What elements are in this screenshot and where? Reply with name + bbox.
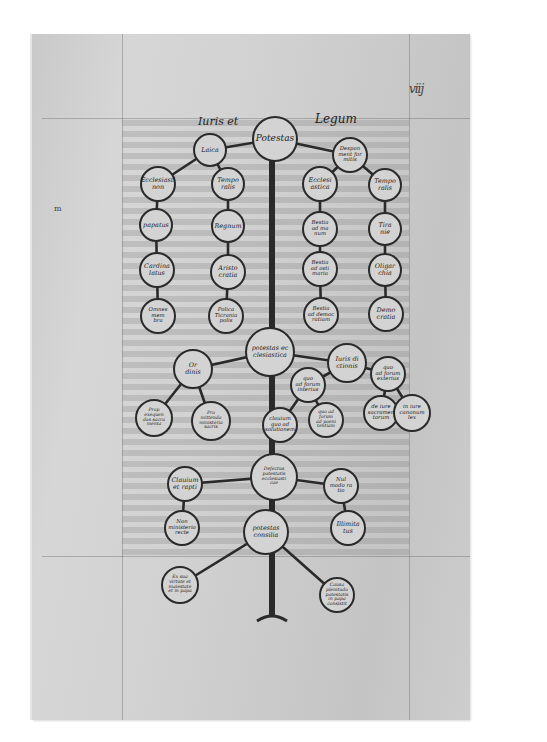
trunk-base xyxy=(257,616,287,621)
node-label-policraticia: Polica Ticrania polis xyxy=(215,307,238,324)
node-label-illimitatus: Illimita tus xyxy=(336,521,359,534)
node-label-laica: Laica xyxy=(201,147,219,154)
node-label-non-ministerio: Non ministerio recte xyxy=(168,519,196,536)
node-label-tiranie: Tira nie xyxy=(378,222,391,235)
node-label-regnum: Regnum xyxy=(215,223,242,230)
node-label-interius-right-sub: quo ad forum ad poeni tentiam xyxy=(316,410,336,429)
node-label-ecclesiastica-left: Ecclesiasti non xyxy=(141,177,176,190)
node-label-causa-right: Causa plenitudo potestatis in papa consi… xyxy=(326,583,349,607)
node-label-nullo-modo: Nul modo ra tio xyxy=(330,477,353,494)
node-label-exterius-sub2: in iure canonum lex xyxy=(399,404,424,421)
node-label-ordinis-left-sub: Prop exequen dos sacra menta xyxy=(143,408,165,427)
node-label-temporalis-right: Tempo ralis xyxy=(374,178,396,191)
node-label-causa-left: Ex sua virtute et maiestate et in papa xyxy=(168,575,191,594)
node-label-bestialiter: Bestia ad ma num xyxy=(311,220,328,237)
node-label-plenitudo-text: potestas consilia xyxy=(252,525,279,538)
node-label-quo-ad-forum-interius: quo ad forum interius xyxy=(296,376,321,393)
node-label-aristocratia: Aristo cratia xyxy=(218,265,237,278)
node-label-exterius-sub1: de iure sacramen torum xyxy=(368,404,395,421)
node-label-clauium-et-rapti: Clauium et rapti xyxy=(171,477,198,490)
node-label-papatus: papatus xyxy=(143,222,169,229)
node-label-iurisdictionis: Iuris di ctionis xyxy=(335,356,358,369)
node-label-temporalis-left: Tempo ralis xyxy=(217,177,239,190)
node-label-bestia-mariana: Bestia ad osti maria xyxy=(311,260,329,277)
node-label-bestia-democratia: Bestia ad democ ratiam xyxy=(308,306,334,323)
node-label-ordinis-right-sub: Pro mittenda ministeria sacris xyxy=(199,411,223,430)
node-label-potestas: Potestas xyxy=(256,134,294,143)
tree-diagram xyxy=(0,0,547,742)
node-label-omnes-ecclesie: Omnes mem bra xyxy=(149,307,168,324)
node-label-potestas-ecclesiastica: potestas ec clesiastica xyxy=(252,345,289,358)
node-label-defectus-potestatis: Defectus potestatis ecclesiasti cae xyxy=(262,467,286,486)
node-label-interius-sub: clauium quo ad solutionem xyxy=(265,416,295,433)
node-label-quo-ad-forum-exterius: quo ad forum exterius xyxy=(376,365,401,382)
node-label-democratia: Demo cratia xyxy=(377,307,396,320)
node-label-ordinis: Or dinis xyxy=(185,362,201,375)
node-label-ecclesiastica-right: Ecclesi astica xyxy=(309,177,332,190)
node-label-oligarchia: Oligar chia xyxy=(375,263,395,276)
node-label-cardinalatus: Cardina latus xyxy=(144,263,170,276)
node-label-desponsamentum: Despon ment for mitis xyxy=(338,146,361,163)
